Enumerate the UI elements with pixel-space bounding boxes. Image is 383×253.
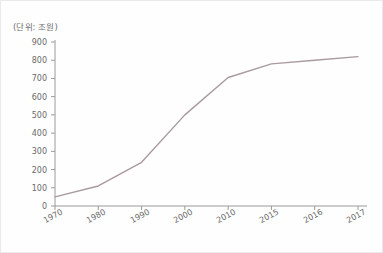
y-tick-label: 500: [21, 110, 47, 119]
chart-figure: (단위: 조원) 0100200300400500600700800900 19…: [0, 0, 383, 253]
data-series-line: [55, 57, 358, 197]
y-tick-label: 800: [21, 56, 47, 65]
y-tick-label: 100: [21, 183, 47, 192]
y-tick-label: 0: [21, 202, 47, 211]
y-tick-label: 600: [21, 92, 47, 101]
y-tick-label: 400: [21, 129, 47, 138]
y-tick-label: 900: [21, 38, 47, 47]
y-tick-label: 200: [21, 165, 47, 174]
y-axis-ticks: [51, 42, 55, 206]
y-tick-label: 300: [21, 147, 47, 156]
y-tick-label: 700: [21, 74, 47, 83]
